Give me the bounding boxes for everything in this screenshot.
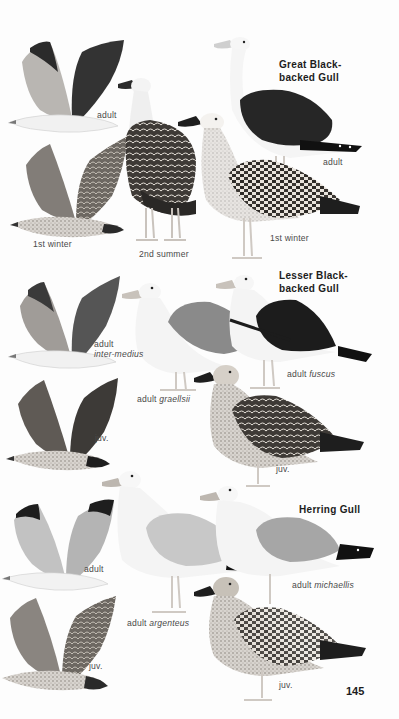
lbbg-juv-flight bbox=[6, 378, 118, 470]
page-number: 145 bbox=[346, 685, 364, 697]
species-title-line1: Herring Gull bbox=[299, 503, 360, 516]
species-title-line1: Great Black- bbox=[279, 58, 342, 71]
species-title-line1: Lesser Black- bbox=[279, 269, 348, 282]
species-title-lesser-black-backed-gull: Lesser Black- backed Gull bbox=[279, 269, 348, 295]
plate-label: adult michaellis bbox=[292, 580, 354, 590]
plate-label: adult inter-medius bbox=[94, 339, 144, 359]
plate-label: adult bbox=[84, 564, 104, 574]
plate-label-subspecies: michaellis bbox=[314, 580, 354, 590]
hg-juv-flight bbox=[2, 596, 116, 690]
plate-label: adult bbox=[323, 157, 343, 167]
plate-label: juv. bbox=[89, 661, 103, 671]
plate-label-main: adult bbox=[94, 339, 144, 349]
plate-label-subspecies: graellsii bbox=[159, 394, 190, 404]
plate-label-subspecies: argenteus bbox=[149, 618, 189, 628]
species-title-line2: backed Gull bbox=[279, 282, 348, 295]
plate-label: 1st winter bbox=[270, 233, 309, 243]
plate-label: juv. bbox=[276, 464, 290, 474]
plate-label-main: adult bbox=[127, 618, 147, 628]
plate-label: juv. bbox=[95, 433, 109, 443]
species-title-great-black-backed-gull: Great Black- backed Gull bbox=[279, 58, 342, 84]
species-title-herring-gull: Herring Gull bbox=[299, 503, 360, 516]
gbbg-2nd-summer-standing bbox=[118, 78, 196, 240]
hg-adult-flight bbox=[2, 500, 114, 591]
gull-illustrations bbox=[0, 0, 399, 719]
species-title-line2: backed Gull bbox=[279, 71, 342, 84]
plate-label-subspecies: fuscus bbox=[309, 369, 335, 379]
field-guide-page: Great Black- backed Gull adult 1st winte… bbox=[0, 0, 399, 719]
plate-label: adult argenteus bbox=[127, 618, 189, 628]
plate-label-main: adult bbox=[137, 394, 157, 404]
plate-label-main: adult bbox=[292, 580, 312, 590]
plate-label: juv. bbox=[279, 680, 293, 690]
plate-label: adult graellsii bbox=[137, 394, 190, 404]
plate-label: adult fuscus bbox=[287, 369, 335, 379]
plate-label-subspecies: inter-medius bbox=[94, 349, 144, 359]
plate-label: 2nd summer bbox=[139, 249, 189, 259]
plate-label-main: adult bbox=[287, 369, 307, 379]
gbbg-1st-winter-flight bbox=[10, 136, 128, 237]
plate-label: 1st winter bbox=[33, 239, 72, 249]
plate-label: adult bbox=[97, 110, 117, 120]
